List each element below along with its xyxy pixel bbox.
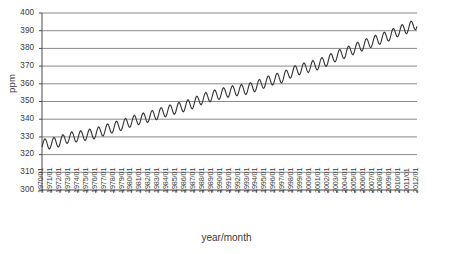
- y-tick-label: 340: [6, 115, 34, 123]
- y-tick-label: 310: [6, 168, 34, 176]
- co2-line-chart: 300310320330340350360370380390400 1970/0…: [0, 0, 453, 254]
- y-axis-title: ppm: [6, 61, 17, 107]
- y-tick-label: 300: [6, 186, 34, 194]
- gridlines: [42, 13, 417, 190]
- y-tick-label: 330: [6, 133, 34, 141]
- y-tick-label: 380: [6, 44, 34, 52]
- y-tick-label: 400: [6, 9, 34, 17]
- y-tick-label: 320: [6, 150, 34, 158]
- data-series-line: [42, 21, 417, 149]
- x-axis-title: year/month: [0, 232, 453, 243]
- plot-area: [0, 0, 453, 254]
- y-tick-label: 390: [6, 27, 34, 35]
